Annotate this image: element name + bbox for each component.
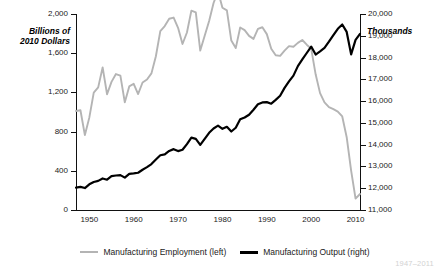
- right-tick-mark: [361, 36, 366, 37]
- right-tick-label: 16,000: [368, 97, 392, 105]
- right-tick-label: 13,000: [368, 162, 392, 170]
- right-tick-mark: [361, 101, 366, 102]
- x-tick-label: 2010: [340, 216, 372, 224]
- legend-item[interactable]: Manufacturing Output (right): [240, 247, 369, 257]
- right-tick-label: 14,000: [368, 141, 392, 149]
- legend-label: Manufacturing Output (right): [263, 247, 369, 257]
- left-tick-label: 1,600: [48, 49, 68, 57]
- series-lines: [76, 14, 360, 210]
- chart-legend: Manufacturing Employment (left)Manufactu…: [60, 245, 390, 259]
- x-tick-label: 1950: [73, 216, 105, 224]
- left-tick-label: 1,200: [48, 88, 68, 96]
- right-tick-mark: [361, 210, 366, 211]
- right-tick-mark: [361, 79, 366, 80]
- left-tick-label: 2,000: [48, 10, 68, 18]
- right-tick-label: 18,000: [368, 54, 392, 62]
- series-line: [76, 24, 360, 188]
- x-tick-label: 1980: [206, 216, 238, 224]
- right-tick-mark: [361, 58, 366, 59]
- x-tick-label: 1970: [162, 216, 194, 224]
- right-tick-label: 17,000: [368, 75, 392, 83]
- right-tick-label: 12,000: [368, 184, 392, 192]
- x-tick-label: 1990: [251, 216, 283, 224]
- right-tick-mark: [361, 145, 366, 146]
- x-tick-label: 2000: [295, 216, 327, 224]
- left-tick-label: 0: [64, 206, 68, 214]
- legend-item[interactable]: Manufacturing Employment (left): [80, 247, 226, 257]
- left-tick-mark: [71, 210, 76, 211]
- x-tick-label: 1960: [118, 216, 150, 224]
- x-axis-line: [76, 210, 361, 211]
- chart-figure: Billions of2010 Dollars Thousands 040080…: [0, 0, 435, 267]
- legend-swatch-icon: [240, 251, 258, 254]
- legend-swatch-icon: [80, 251, 98, 253]
- right-tick-label: 20,000: [368, 10, 392, 18]
- right-tick-label: 15,000: [368, 119, 392, 127]
- right-tick-mark: [361, 14, 366, 15]
- left-axis-caption: Billions of2010 Dollars: [20, 27, 70, 46]
- right-tick-mark: [361, 123, 366, 124]
- legend-label: Manufacturing Employment (left): [103, 247, 226, 257]
- right-tick-mark: [361, 166, 366, 167]
- left-tick-label: 400: [55, 167, 68, 175]
- right-tick-mark: [361, 188, 366, 189]
- series-line: [76, 0, 360, 199]
- footnote-text: 1947–2011: [395, 259, 434, 267]
- left-tick-label: 800: [55, 128, 68, 136]
- plot-area: [76, 14, 360, 210]
- right-tick-label: 11,000: [368, 206, 392, 214]
- right-tick-label: 19,000: [368, 32, 392, 40]
- right-axis-line: [360, 14, 361, 211]
